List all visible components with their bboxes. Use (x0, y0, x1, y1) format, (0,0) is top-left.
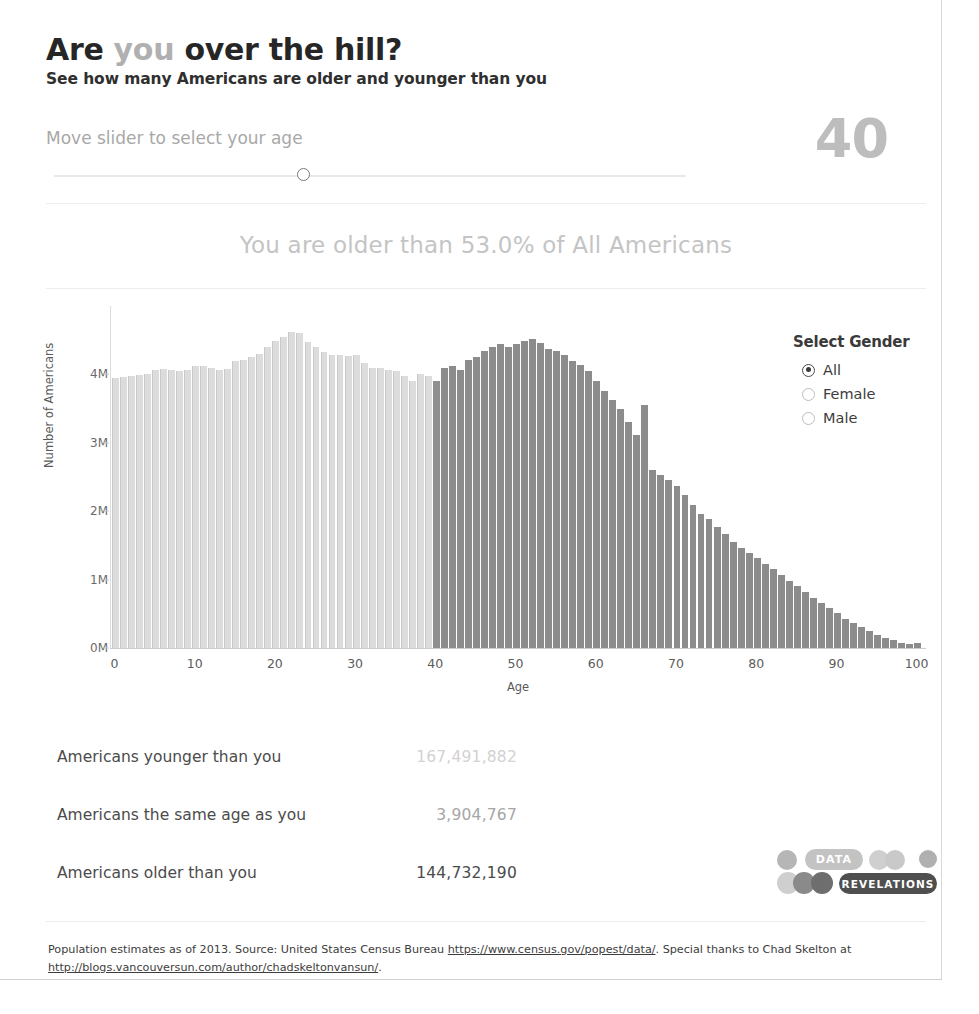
radio-option-female[interactable]: Female (802, 382, 923, 406)
bar-age-54[interactable] (545, 349, 552, 648)
bar-age-17[interactable] (248, 357, 255, 648)
bar-age-92[interactable] (850, 623, 857, 648)
bar-age-7[interactable] (168, 370, 175, 648)
bar-age-66[interactable] (641, 405, 648, 648)
bar-age-78[interactable] (738, 548, 745, 648)
bar-age-82[interactable] (770, 569, 777, 648)
radio-option-all[interactable]: All (802, 358, 923, 382)
bar-age-40[interactable] (433, 381, 440, 648)
bar-age-12[interactable] (208, 368, 215, 648)
bar-age-1[interactable] (120, 377, 127, 648)
bar-age-57[interactable] (569, 361, 576, 648)
bar-age-87[interactable] (810, 598, 817, 648)
bar-age-0[interactable] (112, 378, 119, 648)
radio-icon-female[interactable] (802, 388, 815, 401)
bar-age-36[interactable] (401, 376, 408, 648)
bar-age-16[interactable] (240, 360, 247, 648)
bar-age-84[interactable] (786, 581, 793, 648)
bar-age-52[interactable] (529, 339, 536, 648)
radio-icon-male[interactable] (802, 412, 815, 425)
bar-age-61[interactable] (601, 391, 608, 648)
bar-age-73[interactable] (698, 514, 705, 648)
bar-age-43[interactable] (457, 370, 464, 648)
bar-age-39[interactable] (425, 376, 432, 648)
bar-age-59[interactable] (585, 371, 592, 648)
bar-age-21[interactable] (280, 337, 287, 648)
bar-age-93[interactable] (858, 627, 865, 648)
radio-icon-all[interactable] (802, 364, 815, 377)
bar-age-4[interactable] (144, 374, 151, 648)
bar-age-72[interactable] (690, 505, 697, 648)
footer-link-blog[interactable]: http://blogs.vancouversun.com/author/cha… (48, 961, 378, 974)
bar-age-45[interactable] (473, 357, 480, 648)
bar-age-25[interactable] (313, 347, 320, 648)
bar-age-46[interactable] (481, 351, 488, 648)
bar-age-44[interactable] (465, 360, 472, 648)
bar-age-2[interactable] (128, 376, 135, 648)
bar-age-81[interactable] (762, 564, 769, 648)
bar-age-10[interactable] (192, 366, 199, 648)
bar-age-26[interactable] (321, 352, 328, 648)
bar-age-98[interactable] (898, 643, 905, 648)
bar-age-31[interactable] (361, 363, 368, 648)
bar-age-29[interactable] (345, 356, 352, 648)
bar-age-70[interactable] (674, 486, 681, 648)
bar-age-88[interactable] (818, 603, 825, 648)
bar-age-24[interactable] (305, 342, 312, 648)
bar-age-9[interactable] (184, 370, 191, 648)
bar-age-5[interactable] (152, 370, 159, 648)
bar-age-94[interactable] (866, 631, 873, 648)
bar-age-83[interactable] (778, 575, 785, 648)
bar-age-38[interactable] (417, 374, 424, 648)
bar-age-32[interactable] (369, 368, 376, 648)
bar-age-6[interactable] (160, 369, 167, 648)
bar-age-18[interactable] (256, 354, 263, 648)
bar-age-23[interactable] (296, 333, 303, 648)
bar-age-51[interactable] (521, 341, 528, 648)
bar-age-11[interactable] (200, 366, 207, 648)
bar-age-55[interactable] (553, 351, 560, 648)
bar-age-19[interactable] (264, 347, 271, 648)
bar-age-58[interactable] (577, 365, 584, 648)
bar-age-74[interactable] (706, 519, 713, 648)
bar-age-48[interactable] (497, 344, 504, 648)
bar-age-41[interactable] (441, 368, 448, 648)
bar-age-71[interactable] (682, 495, 689, 648)
bar-age-77[interactable] (730, 542, 737, 648)
bar-age-85[interactable] (794, 586, 801, 648)
bar-age-100[interactable] (914, 643, 921, 648)
bar-age-91[interactable] (842, 619, 849, 648)
bar-age-47[interactable] (489, 347, 496, 648)
slider-track[interactable] (54, 175, 686, 177)
bar-age-3[interactable] (136, 375, 143, 648)
bar-age-50[interactable] (513, 344, 520, 648)
bar-age-62[interactable] (609, 400, 616, 648)
bar-age-79[interactable] (746, 553, 753, 648)
bar-age-34[interactable] (385, 370, 392, 648)
bar-age-80[interactable] (754, 558, 761, 648)
bar-age-53[interactable] (537, 343, 544, 648)
footer-link-census[interactable]: https://www.census.gov/popest/data/ (448, 943, 656, 956)
bar-age-63[interactable] (617, 409, 624, 648)
bar-age-27[interactable] (329, 355, 336, 648)
bar-age-56[interactable] (561, 355, 568, 648)
bar-age-37[interactable] (409, 381, 416, 648)
bar-age-13[interactable] (216, 370, 223, 648)
bar-age-22[interactable] (288, 332, 295, 648)
bar-age-69[interactable] (665, 480, 672, 648)
bar-age-35[interactable] (393, 371, 400, 648)
bar-age-96[interactable] (882, 638, 889, 648)
bar-age-99[interactable] (906, 644, 913, 648)
slider-handle[interactable] (297, 168, 310, 181)
bar-age-42[interactable] (449, 366, 456, 648)
bar-age-30[interactable] (353, 355, 360, 648)
age-slider[interactable] (54, 166, 686, 186)
bar-age-90[interactable] (834, 613, 841, 648)
bar-age-67[interactable] (649, 470, 656, 648)
bar-age-86[interactable] (802, 592, 809, 648)
bar-age-14[interactable] (224, 369, 231, 648)
bar-age-75[interactable] (714, 527, 721, 648)
bar-age-65[interactable] (633, 435, 640, 648)
bar-age-95[interactable] (874, 635, 881, 648)
bar-age-33[interactable] (377, 368, 384, 648)
